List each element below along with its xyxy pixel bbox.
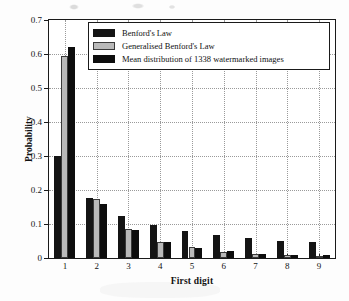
bar-3-series-2	[125, 229, 132, 258]
bar-4-series-3	[164, 242, 171, 258]
legend-item: Generalised Benford's Law	[93, 40, 325, 52]
bar-4-series-1	[150, 225, 157, 258]
bar-2-series-3	[100, 204, 107, 258]
x-axis-tick-label: 9	[317, 261, 322, 271]
legend-item: Benford's Law	[93, 27, 325, 39]
bar-6-series-2	[220, 252, 227, 258]
y-axis-tick-label: 0.6	[31, 49, 42, 59]
chart-figure: Probability 00.10.20.30.40.50.60.7123456…	[0, 0, 349, 301]
y-axis-tick	[44, 224, 49, 225]
bar-9-series-1	[309, 242, 316, 258]
bar-7-series-2	[252, 254, 259, 258]
bar-8-series-3	[291, 255, 298, 258]
y-axis-tick-label: 0.1	[31, 219, 42, 229]
black-swatch	[93, 29, 115, 37]
x-axis-tick-label: 8	[285, 261, 290, 271]
legend-label: Mean distribution of 1338 watermarked im…	[122, 54, 284, 64]
y-axis-tick-label: 0.3	[31, 151, 42, 161]
bar-8-series-2	[284, 255, 291, 258]
bar-3-series-3	[132, 230, 139, 258]
bar-3-series-1	[118, 216, 125, 259]
y-axis-tick	[44, 122, 49, 123]
y-axis-tick-label: 0	[38, 253, 43, 263]
bar-6-series-3	[227, 251, 234, 258]
bar-9-series-2	[316, 256, 323, 258]
legend-label: Generalised Benford's Law	[122, 41, 215, 51]
bar-8-series-1	[277, 241, 284, 258]
gray-swatch	[93, 42, 115, 50]
y-axis-tick	[44, 258, 49, 259]
bar-1-series-2	[61, 56, 68, 258]
legend-item: Mean distribution of 1338 watermarked im…	[93, 53, 325, 65]
x-axis-tick-label: 1	[63, 261, 68, 271]
y-axis-tick	[44, 88, 49, 89]
bar-1-series-3	[68, 47, 75, 258]
bar-1-series-1	[54, 156, 61, 258]
bar-2-series-2	[93, 199, 100, 259]
bar-5-series-1	[182, 231, 189, 258]
legend-label: Benford's Law	[122, 28, 172, 38]
x-axis-tick-label: 2	[94, 261, 99, 271]
y-axis-tick-label: 0.7	[31, 15, 42, 25]
x-axis-tick-label: 3	[126, 261, 131, 271]
bar-4-series-2	[157, 242, 164, 258]
x-axis-tick-label: 7	[253, 261, 258, 271]
y-axis-tick	[44, 54, 49, 55]
y-axis-tick	[44, 190, 49, 191]
y-axis-tick-label: 0.5	[31, 83, 42, 93]
bar-7-series-3	[259, 254, 266, 258]
bar-2-series-1	[86, 198, 93, 258]
x-axis-tick-label: 5	[190, 261, 195, 271]
y-axis-tick	[44, 20, 49, 21]
y-axis-tick-label: 0.4	[31, 117, 42, 127]
bar-6-series-1	[213, 235, 220, 258]
black-swatch	[93, 55, 115, 63]
x-axis-title: First digit	[48, 276, 336, 286]
scan-artifact	[60, 2, 230, 11]
x-axis-tick-label: 6	[222, 261, 227, 271]
y-axis-tick-label: 0.2	[31, 185, 42, 195]
bar-7-series-1	[245, 238, 252, 258]
bar-5-series-2	[189, 247, 196, 258]
chart-legend: Benford's LawGeneralised Benford's LawMe…	[88, 22, 330, 70]
y-axis-tick	[44, 156, 49, 157]
bar-9-series-3	[323, 255, 330, 258]
bar-5-series-3	[195, 248, 202, 258]
x-axis-tick-label: 4	[158, 261, 163, 271]
